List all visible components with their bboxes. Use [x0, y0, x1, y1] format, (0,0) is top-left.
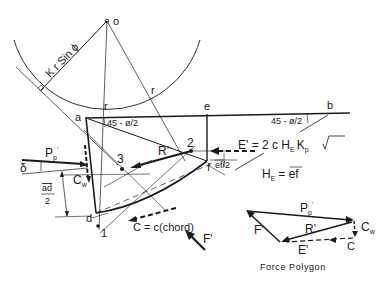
ad-half-arrow-top: [60, 171, 64, 177]
angle-tick-b: [307, 114, 308, 123]
r-prime-arrowhead: [130, 162, 141, 168]
fp-c-line: [286, 238, 353, 242]
label-r-prime: R': [158, 144, 169, 158]
fp-label-pp: Pp': [300, 201, 313, 217]
cw-arrowhead: [86, 176, 91, 183]
label-r-right: r: [151, 84, 155, 96]
earth-pressure-diagram: o K r Sin ϕ r r a e b 45 - ø/2 45 - ø/2 …: [0, 0, 390, 283]
ad-half-arrow-bottom: [65, 211, 69, 217]
sqrt-symbol: [323, 136, 345, 149]
radius-line-right: [107, 21, 185, 161]
label-f-prime: F': [203, 232, 213, 246]
label-ad-half-num: ad: [42, 183, 52, 193]
label-cw: Cw: [73, 173, 88, 188]
point-1: [96, 224, 100, 228]
label-angle-b: 45 - ø/2: [271, 116, 302, 126]
label-3: 3: [117, 152, 124, 166]
label-d: d: [86, 212, 92, 224]
label-pp-prime: Pp': [45, 146, 58, 162]
fp-label-cw: Cw: [361, 220, 376, 235]
label-lever-arm: K r Sin ϕ: [43, 41, 81, 80]
construction-line-6: [92, 213, 108, 218]
label-he: HE= ef: [262, 167, 299, 182]
label-o: o: [113, 15, 119, 27]
fp-title: Force Polygon: [260, 262, 326, 272]
label-1: 1: [101, 227, 107, 239]
e-prime-arrowhead: [210, 147, 219, 155]
angle-tick-a: [104, 118, 105, 127]
fp-pp-line: [247, 211, 350, 220]
failure-surface: [96, 161, 207, 213]
force-polygon: Pp' Cw R' F' E' C Force Polygon: [246, 201, 376, 272]
fp-c-arrowhead: [329, 237, 336, 243]
point-3: [120, 167, 124, 171]
fp-r-arrowhead: [281, 236, 290, 242]
label-b: b: [327, 99, 333, 111]
label-r-left: r: [104, 100, 108, 112]
label-ef-half: ef/2: [215, 160, 230, 170]
label-angle-a: 45 - ø/2: [107, 118, 138, 128]
fp-label-f: F': [254, 223, 264, 237]
label-cohesion-chord: C = c(chord): [133, 221, 194, 233]
label-e: e: [204, 100, 210, 112]
label-delta: δ: [20, 161, 27, 175]
fp-label-e: E': [298, 243, 308, 257]
label-a: a: [75, 111, 82, 123]
construction-line-4: [100, 146, 195, 233]
fp-label-r: R': [305, 222, 316, 236]
tangent-line: [16, 67, 118, 165]
rankine-zone-line: [300, 115, 328, 132]
fp-r-line: [286, 222, 352, 240]
e-prime-leader: [235, 153, 264, 170]
fp-cw-arrowhead: [352, 231, 358, 237]
label-ad-half-den: 2: [45, 196, 50, 206]
cw-arrow: [85, 145, 88, 178]
ad-half-dimension: [62, 172, 67, 216]
label-2: 2: [187, 136, 194, 150]
cohesion-arrow: [135, 208, 176, 219]
fp-label-c: C: [347, 240, 355, 252]
label-e-prime-formula: E' = 2 c HEKp: [238, 138, 309, 154]
